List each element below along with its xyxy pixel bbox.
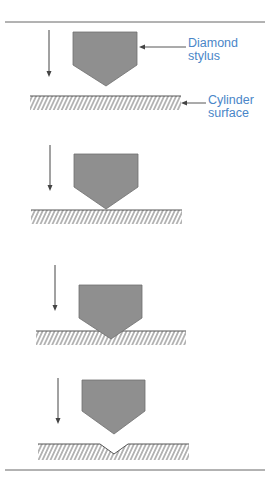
arrowhead — [56, 418, 61, 424]
diamond-stylus — [82, 380, 145, 434]
engraved-surface-hatch — [38, 444, 189, 460]
stage-3 — [36, 265, 186, 345]
arrowhead — [48, 185, 53, 191]
cylinder-surface-hatch — [31, 210, 182, 224]
stage-1 — [30, 30, 206, 110]
stylus-label-line-2: stylus — [188, 50, 238, 63]
engraving-diagram — [0, 0, 267, 484]
stage-4 — [38, 378, 189, 460]
cylinder-surface-hatch — [30, 96, 181, 110]
diamond-stylus — [73, 32, 137, 86]
arrowhead — [53, 305, 58, 311]
stage-2 — [31, 145, 182, 224]
arrowhead — [47, 71, 52, 77]
surface-leader-arrowhead — [181, 101, 187, 106]
stylus-label: Diamond stylus — [188, 37, 238, 63]
diamond-stylus — [74, 154, 138, 209]
stylus-leader-arrowhead — [139, 45, 145, 50]
surface-label-line-2: surface — [208, 107, 254, 120]
surface-label: Cylinder surface — [208, 94, 254, 120]
